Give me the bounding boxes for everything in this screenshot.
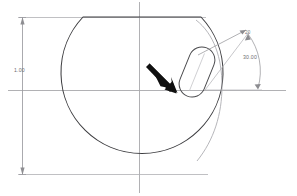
- drawing-canvas[interactable]: 1.00 20: [0, 0, 297, 196]
- linear-dimension-vertical[interactable]: 1.00: [14, 17, 26, 175]
- slot-centerline: [190, 53, 205, 90]
- main-profile-outline[interactable]: [61, 17, 223, 153]
- cad-drawing-svg[interactable]: 1.00 20: [0, 0, 297, 196]
- main-profile-group[interactable]: [61, 17, 223, 153]
- angular-leader-line: [198, 30, 246, 55]
- extension-lines-group: [18, 18, 208, 175]
- mouse-pointer-arrow-icon: [146, 63, 178, 94]
- angular-ref-line: [205, 32, 249, 90]
- angular-label-main[interactable]: 30.00: [243, 54, 257, 60]
- angular-arc: [248, 34, 260, 88]
- slot-feature-group[interactable]: [175, 43, 219, 101]
- dimension-label-height[interactable]: 1.00: [14, 67, 25, 73]
- dimension-arrow-bottom-icon: [20, 168, 24, 176]
- angular-arc-arrow-bottom-icon: [255, 84, 261, 90]
- dimension-arrow-top-icon: [20, 17, 24, 25]
- angular-label-upper[interactable]: 20: [245, 30, 251, 35]
